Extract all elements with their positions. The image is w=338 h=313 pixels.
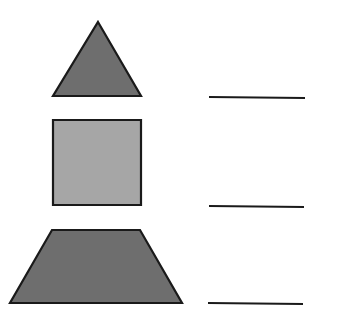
answer-line-square[interactable] [209, 206, 304, 207]
answer-line-triangle[interactable] [209, 97, 305, 98]
trapezoid-shape [10, 230, 182, 303]
answer-line-trapezoid[interactable] [208, 303, 303, 304]
square-shape [53, 120, 141, 205]
worksheet-canvas [0, 0, 338, 313]
triangle-shape [53, 22, 141, 96]
